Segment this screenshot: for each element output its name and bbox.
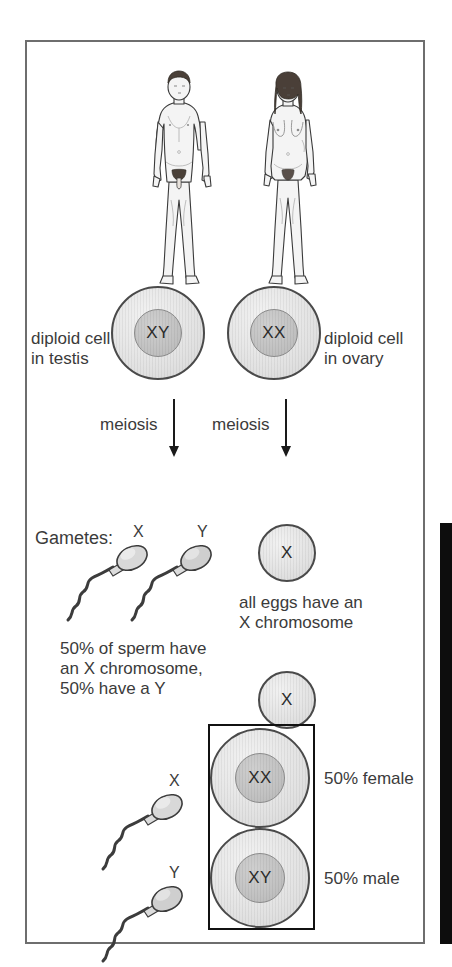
diploid-cell-testis: XY: [111, 286, 205, 380]
sperm-caption: 50% of sperm have an X chromosome, 50% h…: [60, 639, 206, 699]
meiosis-arrow-right: [280, 399, 292, 457]
meiosis-label-left: meiosis: [100, 415, 158, 435]
diploid-ovary-caption: diploid cell in ovary: [324, 329, 403, 369]
nucleus-xy: XY: [134, 309, 182, 357]
egg-caption: all eggs have an X chromosome: [239, 593, 363, 633]
offspring-cell-male: XY: [210, 828, 310, 928]
page-edge-bar: [440, 523, 452, 944]
offspring-male-outcome: 50% male: [324, 869, 400, 889]
egg-cell-fertilisation: X: [258, 671, 316, 729]
offspring-female-outcome: 50% female: [324, 769, 414, 789]
male-figure: [142, 70, 216, 290]
diploid-testis-caption: diploid cell in testis: [31, 329, 110, 369]
nucleus-offspring-xx: XX: [235, 753, 285, 803]
offspring-cell-female: XX: [210, 728, 310, 828]
diagram-frame: XY XX diploid cell in testis diploid cel…: [25, 40, 425, 944]
nucleus-offspring-xy: XY: [235, 853, 285, 903]
meiosis-arrow-left: [168, 399, 180, 457]
diploid-cell-ovary: XX: [227, 286, 321, 380]
egg-cell-gamete: X: [258, 524, 316, 582]
fert-sperm-y: [92, 875, 198, 967]
nucleus-xx: XX: [250, 309, 298, 357]
sperm-y-gamete: [121, 534, 227, 626]
female-figure: [249, 70, 327, 290]
meiosis-label-right: meiosis: [212, 415, 270, 435]
fert-sperm-x: [92, 783, 198, 875]
egg-gamete-chromosome: X: [281, 543, 293, 563]
egg-fert-chromosome: X: [281, 690, 293, 710]
